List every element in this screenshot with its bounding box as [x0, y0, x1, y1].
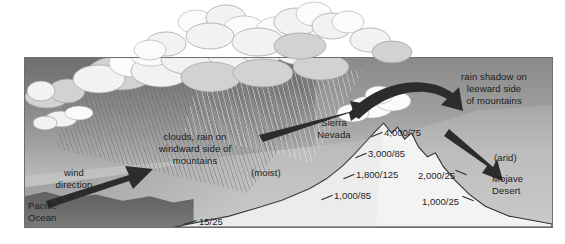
- reading-windward-1800: 1,800/125: [356, 169, 398, 180]
- windward-line2: windward side of: [140, 143, 250, 155]
- sierra-line2: Nevada: [310, 129, 358, 141]
- sierra-line1: Sierra: [310, 117, 358, 129]
- windward-label: clouds, rain on windward side of mountai…: [140, 131, 250, 167]
- reading-summit-4000: 4,000/75: [384, 127, 421, 138]
- sierra-nevada-label: Sierra Nevada: [310, 117, 358, 141]
- mojave-line1: Mojave: [492, 173, 523, 185]
- pacific-ocean-line2: Ocean: [28, 212, 57, 224]
- pacific-ocean-line1: Pacific: [28, 200, 57, 212]
- mojave-line2: Desert: [492, 185, 523, 197]
- reading-windward-1000: 1,000/85: [334, 190, 371, 201]
- reading-sea-level: 15/25: [199, 216, 223, 227]
- reading-leeward-2000: 2,000/25: [418, 170, 455, 181]
- mojave-desert-label: Mojave Desert: [492, 173, 523, 197]
- wind-direction-line1: wind: [43, 167, 105, 179]
- rain-shadow-line2: leeward side: [440, 83, 548, 95]
- wind-direction-label: wind direction: [43, 167, 105, 191]
- pacific-ocean-label: Pacific Ocean: [28, 200, 57, 224]
- wind-direction-line2: direction: [43, 179, 105, 191]
- rain-shadow-line3: of mountains: [440, 95, 548, 107]
- rain-shadow-label: rain shadow on leeward side of mountains: [440, 71, 548, 107]
- reading-leeward-1000: 1,000/25: [422, 196, 459, 207]
- arid-label: (arid): [494, 152, 517, 164]
- diagram-canvas: wind direction Pacific Ocean clouds, rai…: [0, 0, 565, 244]
- windward-line1: clouds, rain on: [140, 131, 250, 143]
- rain-shadow-line1: rain shadow on: [440, 71, 548, 83]
- reading-windward-3000: 3,000/85: [368, 148, 405, 159]
- moist-label: (moist): [251, 167, 281, 179]
- windward-line3: mountains: [140, 155, 250, 167]
